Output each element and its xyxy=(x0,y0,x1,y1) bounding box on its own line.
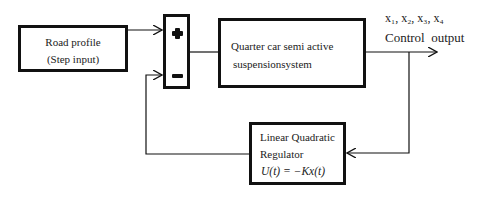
road-profile-label: Road profile xyxy=(21,35,125,49)
states-label: x₁, x₂, x₃, x₄ xyxy=(385,11,444,25)
lqr-sublabel: Regulator xyxy=(260,147,303,161)
plus-sign xyxy=(172,28,183,39)
control-law-equation: U(t) = −Kx(t) xyxy=(261,164,325,178)
lqr-controller-block: Linear Quadratic Regulator U(t) = −Kx(t) xyxy=(249,122,346,185)
output-label: Control output xyxy=(385,31,464,45)
road-profile-sublabel: (Step input) xyxy=(21,52,125,66)
minus-sign xyxy=(172,74,183,78)
plant-label: Quarter car semi active xyxy=(231,39,333,53)
lqr-label: Linear Quadratic xyxy=(260,130,335,144)
plant-sublabel: suspensionsystem xyxy=(233,57,312,71)
plant-block: Quarter car semi active suspensionsystem xyxy=(218,18,366,88)
road-profile-block: Road profile (Step input) xyxy=(18,25,128,72)
summing-junction xyxy=(163,14,190,89)
